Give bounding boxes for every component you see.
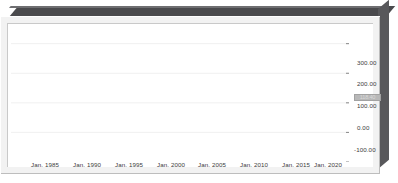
plot-area [11,20,349,162]
axis-tick-marks [346,44,349,162]
card-3d-top-highlight [9,6,388,8]
line-chart-svg [11,20,349,162]
chart-card: 300.00 200.00 100.00 0.00 -100.00 118.40… [0,6,390,174]
gridlines [11,44,349,133]
